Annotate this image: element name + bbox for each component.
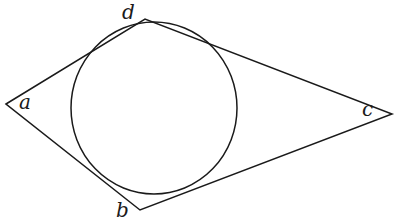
vertex-label-b: b [116,200,129,220]
kite-diagram [0,0,399,223]
inscribed-circle [71,22,237,194]
vertex-label-a: a [19,92,31,112]
kite-quadrilateral [6,19,392,210]
vertex-label-d: d [122,2,135,22]
vertex-label-c: c [362,99,373,119]
